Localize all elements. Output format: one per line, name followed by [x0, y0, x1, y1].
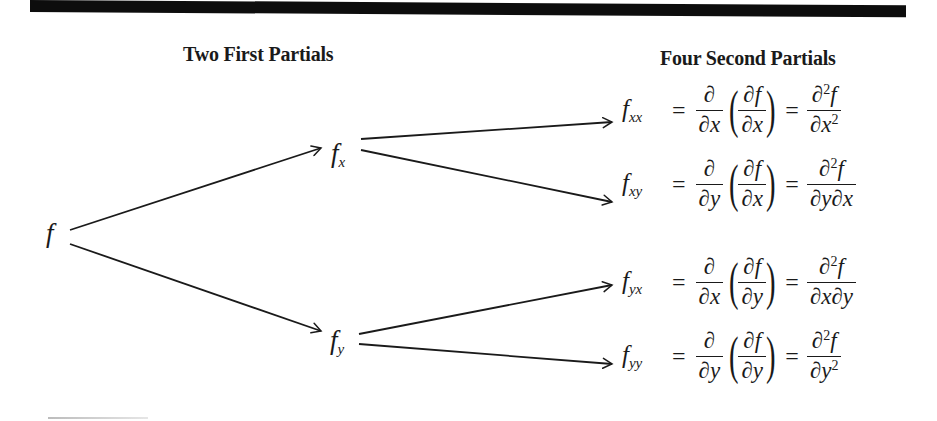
left-paren: (	[729, 330, 739, 382]
frac-num: ∂f	[741, 329, 763, 355]
frac-num: ∂2f	[817, 157, 846, 183]
node-f: f	[46, 220, 54, 247]
formula-fyy: fyy = ∂∂y ( ∂f∂y ) = ∂2f ∂y2	[622, 324, 841, 388]
inner-derivative-group: ( ∂f∂x )	[729, 83, 775, 136]
frac-num: ∂2f	[810, 329, 839, 355]
formula-lhs: fxy	[622, 169, 668, 200]
bottom-rule	[48, 417, 148, 419]
formula-fxy: fxy = ∂∂y ( ∂f∂x ) = ∂2f ∂y∂x	[622, 152, 856, 216]
lhs-base: f	[622, 341, 629, 368]
frac-num: ∂	[702, 157, 717, 183]
equals-sign: =	[785, 171, 799, 198]
right-paren: )	[766, 330, 776, 382]
inner-derivative-group: ( ∂f∂x )	[729, 157, 775, 210]
lhs-base: f	[622, 169, 629, 196]
arrow-fx-to-fxx	[361, 122, 612, 139]
equals-sign: =	[672, 343, 686, 370]
inner-derivative: ∂f∂x	[738, 83, 766, 136]
frac-den: ∂y	[738, 282, 766, 309]
result-derivative: ∂2f ∂x∂y	[807, 255, 856, 308]
frac-den: ∂y	[696, 356, 724, 383]
equals-sign: =	[785, 269, 799, 296]
frac-den: ∂x∂y	[807, 282, 856, 309]
frac-den: ∂x	[696, 110, 724, 137]
node-f-base: f	[46, 218, 54, 248]
num-f: f	[830, 82, 836, 107]
node-fy-sub: y	[338, 341, 345, 357]
right-paren: )	[766, 256, 776, 308]
den-text: ∂x∂y	[810, 284, 853, 309]
equals-sign: =	[785, 97, 799, 124]
arrow-f-to-fy	[70, 244, 321, 331]
num-partial: ∂	[819, 156, 830, 181]
lhs-sub: yx	[629, 281, 642, 297]
frac-num: ∂f	[741, 157, 763, 183]
arrow-f-to-fx	[70, 148, 321, 230]
frac-num: ∂2f	[810, 83, 839, 109]
right-paren: )	[766, 158, 776, 210]
formula-fyx: fyx = ∂∂x ( ∂f∂y ) = ∂2f ∂x∂y	[622, 250, 856, 314]
equals-sign: =	[672, 269, 686, 296]
inner-derivative: ∂f∂x	[738, 157, 766, 210]
lhs-sub: yy	[629, 355, 642, 371]
left-paren: (	[729, 84, 739, 136]
equals-sign: =	[785, 343, 799, 370]
arrow-fy-to-fyx	[359, 285, 612, 334]
frac-den: ∂y2	[807, 356, 842, 383]
arrow-fy-to-fyy	[359, 344, 612, 364]
node-fx-sub: x	[339, 154, 346, 170]
equals-sign: =	[672, 171, 686, 198]
formula-lhs: fxx	[622, 95, 668, 126]
frac-den: ∂x	[738, 110, 766, 137]
outer-derivative: ∂∂y	[696, 157, 724, 210]
frac-den: ∂x2	[807, 110, 842, 137]
den-text: ∂y	[810, 358, 832, 383]
left-paren: (	[729, 158, 739, 210]
num-partial: ∂	[819, 254, 830, 279]
result-derivative: ∂2f ∂x2	[807, 83, 842, 136]
node-fy: fy	[330, 327, 344, 357]
formula-lhs: fyy	[622, 341, 668, 372]
inner-derivative: ∂f∂y	[738, 329, 766, 382]
result-derivative: ∂2f ∂y2	[807, 329, 842, 382]
inner-derivative-group: ( ∂f∂y )	[729, 329, 775, 382]
num-f: f	[837, 156, 843, 181]
frac-num: ∂f	[741, 83, 763, 109]
node-fy-base: f	[330, 325, 338, 355]
den-exponent: 2	[831, 358, 838, 373]
frac-num: ∂2f	[817, 255, 846, 281]
inner-derivative: ∂f∂y	[738, 255, 766, 308]
result-derivative: ∂2f ∂y∂x	[807, 157, 856, 210]
num-f: f	[830, 328, 836, 353]
frac-den: ∂y	[738, 356, 766, 383]
num-f: f	[837, 254, 843, 279]
frac-num: ∂	[702, 255, 717, 281]
lhs-base: f	[622, 95, 629, 122]
frac-den: ∂x	[696, 282, 724, 309]
formula-fxx: fxx = ∂∂x ( ∂f∂x ) = ∂2f ∂x2	[622, 78, 841, 142]
num-partial: ∂	[812, 328, 823, 353]
arrow-fx-to-fxy	[361, 150, 612, 202]
den-text: ∂x	[810, 112, 832, 137]
frac-num: ∂	[702, 329, 717, 355]
lhs-sub: xy	[629, 183, 642, 199]
left-paren: (	[729, 256, 739, 308]
outer-derivative: ∂∂x	[696, 255, 724, 308]
equals-sign: =	[672, 97, 686, 124]
outer-derivative: ∂∂x	[696, 83, 724, 136]
frac-den: ∂y∂x	[807, 184, 856, 211]
lhs-sub: xx	[629, 109, 642, 125]
den-text: ∂y∂x	[810, 186, 853, 211]
num-partial: ∂	[812, 82, 823, 107]
lhs-base: f	[622, 267, 629, 294]
frac-num: ∂f	[741, 255, 763, 281]
right-paren: )	[766, 84, 776, 136]
node-fx: fx	[331, 140, 345, 170]
node-fx-base: f	[331, 138, 339, 168]
frac-den: ∂x	[738, 184, 766, 211]
frac-num: ∂	[702, 83, 717, 109]
inner-derivative-group: ( ∂f∂y )	[729, 255, 775, 308]
outer-derivative: ∂∂y	[696, 329, 724, 382]
frac-den: ∂y	[696, 184, 724, 211]
formula-lhs: fyx	[622, 267, 668, 298]
